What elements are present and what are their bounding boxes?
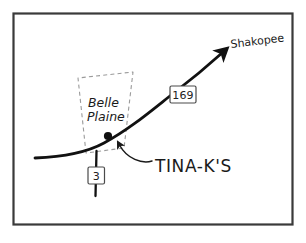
highway-shield-3: 3	[88, 167, 105, 184]
poi-label-tina-ks: TINA-K'S	[154, 156, 232, 176]
area-label-belle-plaine-line2: Plaine	[87, 109, 125, 124]
map-canvas: 169 3 Shakopee Belle Plaine TINA-K'S	[0, 0, 306, 243]
poi-dot	[104, 132, 112, 140]
highway-shield-3-number: 3	[93, 170, 100, 183]
hand-drawn-map-figure: 169 3 Shakopee Belle Plaine TINA-K'S	[0, 0, 306, 243]
area-label-belle-plaine-line1: Belle	[88, 95, 119, 110]
highway-shield-169: 169	[170, 86, 196, 103]
highway-shield-169-number: 169	[172, 89, 194, 102]
